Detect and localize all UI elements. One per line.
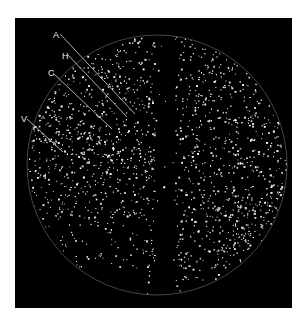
label-v-text: V	[21, 114, 27, 124]
label-a-text: A	[53, 30, 59, 40]
pointer-line-a	[60, 34, 135, 114]
plate-outline	[27, 35, 287, 295]
label-c-text: C	[48, 68, 55, 78]
star-field-plot: A H C V	[15, 18, 292, 308]
annotations: A H C V	[21, 30, 135, 152]
label-h: H	[62, 51, 127, 117]
label-a: A	[53, 30, 135, 114]
star-dots	[28, 37, 287, 295]
label-h-text: H	[62, 51, 69, 61]
star-field-figure: A H C V	[15, 18, 292, 308]
pointer-line-v	[27, 119, 63, 152]
